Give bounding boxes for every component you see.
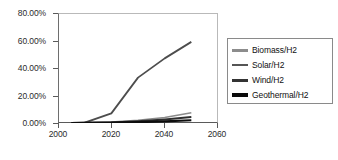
legend-label-biomass: Biomass/H2 — [252, 46, 297, 55]
chart-legend: Biomass/H2 Solar/H2 Wind/H2 Geothermal/H… — [227, 38, 333, 104]
x-tick-label-2060: 2060 — [208, 130, 227, 139]
y-tick-label-0: 0.00% — [22, 119, 46, 128]
x-tick-mark-2000 — [58, 123, 59, 128]
x-tick-label-2020: 2020 — [102, 130, 121, 139]
x-tick-mark-2040 — [164, 123, 165, 128]
y-tick-label-60: 60.00% — [18, 36, 46, 45]
x-tick-label-2040: 2040 — [155, 130, 174, 139]
y-tick-label-20: 20.00% — [18, 91, 46, 100]
legend-label-solar: Solar/H2 — [252, 61, 284, 70]
legend-label-geothermal: Geothermal/H2 — [252, 91, 308, 100]
x-tick-label-2000: 2000 — [49, 130, 68, 139]
legend-swatch-solar — [232, 64, 248, 66]
legend-item-geothermal: Geothermal/H2 — [232, 88, 332, 102]
plot-lines — [58, 13, 218, 123]
x-tick-mark-2060 — [217, 123, 218, 128]
legend-swatch-geothermal — [232, 93, 248, 97]
chart-container: 80.00% 60.00% 40.00% 20.00% 0.00% 2000 2… — [0, 0, 338, 160]
y-tick-label-40: 40.00% — [18, 64, 46, 73]
legend-label-wind: Wind/H2 — [252, 76, 284, 85]
legend-item-wind: Wind/H2 — [232, 73, 332, 87]
legend-swatch-biomass — [232, 49, 248, 52]
legend-item-solar: Solar/H2 — [232, 58, 332, 72]
y-axis: 80.00% 60.00% 40.00% 20.00% 0.00% — [0, 0, 54, 160]
series-line-solar-h2 — [71, 42, 191, 123]
x-tick-mark-2020 — [111, 123, 112, 128]
legend-item-biomass: Biomass/H2 — [232, 43, 332, 57]
legend-swatch-wind — [232, 79, 248, 82]
y-tick-label-80: 80.00% — [18, 9, 46, 18]
